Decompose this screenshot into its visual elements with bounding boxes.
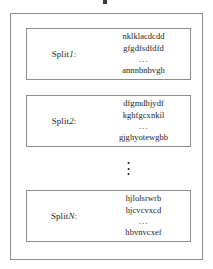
split-label-1: Split1: [27, 50, 101, 59]
split-line: hbvnvcxef [101, 227, 186, 239]
split-lines-1: nklklacdcdd gfgdfsdfdfd ... annnbnbvgh [101, 31, 190, 77]
split-box-2: Split2: dfgmdhjydf kghfgcxnkil ... gjghy… [26, 95, 191, 147]
vertical-ellipsis-glyph: ⋮ [121, 161, 136, 176]
split-lines-2: dfgmdhjydf kghfgcxnkil ... gjghyotewgbb [101, 98, 190, 144]
split-line: nklklacdcdd [101, 31, 186, 43]
split-label-1-suffix: : [74, 49, 77, 59]
split-label-n-suffix: : [75, 211, 78, 221]
split-label-2-prefix: Split [52, 116, 70, 126]
split-lines-n: hjlolsrwrb hjcvcvxcd ... hbvnvcxef [101, 193, 190, 239]
split-line: hjlolsrwrb [101, 193, 186, 205]
splits-stack: Split1: nklklacdcdd gfgdfsdfdfd ... annn… [11, 14, 202, 259]
split-line-ellipsis: ... [101, 54, 186, 65]
split-line: dfgmdhjydf [101, 98, 186, 110]
split-line-ellipsis: ... [101, 121, 186, 132]
split-label-1-prefix: Split [52, 49, 70, 59]
split-box-1: Split1: nklklacdcdd gfgdfsdfdfd ... annn… [26, 28, 191, 80]
split-line: kghfgcxnkil [101, 110, 186, 122]
split-line-ellipsis: ... [101, 216, 186, 227]
crop-artifact-mark [103, 0, 107, 4]
diagram-outer-frame: Split1: nklklacdcdd gfgdfsdfdfd ... annn… [10, 13, 203, 260]
split-line: annnbnbvgh [101, 65, 186, 77]
split-box-n: SplitN: hjlolsrwrb hjcvcvxcd ... hbvnvcx… [26, 190, 191, 242]
split-label-n: SplitN: [27, 212, 101, 221]
split-label-2-suffix: : [74, 116, 77, 126]
split-line: gfgdfsdfdfd [101, 43, 186, 55]
split-label-n-prefix: Split [51, 211, 69, 221]
split-line: gjghyotewgbb [101, 132, 186, 144]
split-label-2: Split2: [27, 117, 101, 126]
split-line: hjcvcvxcd [101, 205, 186, 217]
vertical-ellipsis: ⋮ [11, 147, 202, 190]
